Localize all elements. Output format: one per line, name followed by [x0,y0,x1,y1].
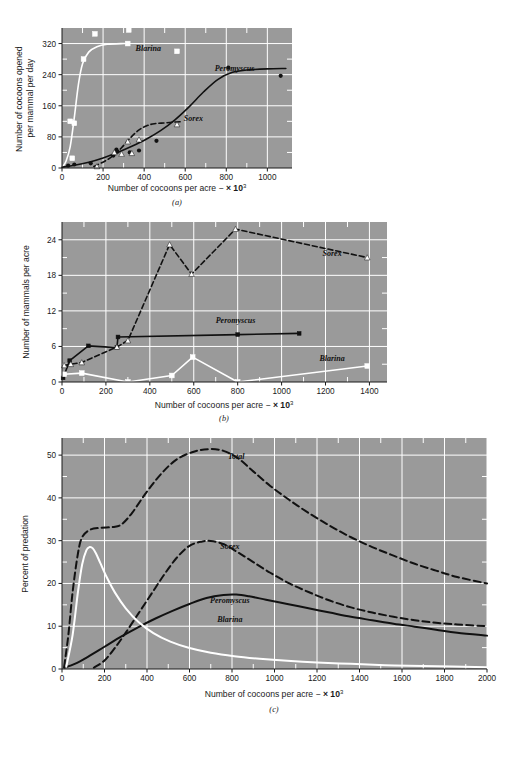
y-tick-label: 0 [51,665,56,674]
x-tick-label: 400 [140,674,154,683]
chart-panel-b: 020040060080010001200140006121824 Peromy… [0,212,517,424]
data-point-peromyscus [72,162,76,166]
data-point-blarina [175,49,180,54]
series-label-sorex: Sorex [323,249,342,258]
panel-letter-c: (c) [269,705,279,714]
x-tick-label: 1600 [393,674,412,683]
data-point-peromyscus [86,344,90,348]
y-tick-label: 24 [47,236,57,245]
y-tick-label: 160 [42,102,56,111]
x-axis-title-a-prefix: Number of cocoons per acre − [108,183,226,193]
x-axis-title-b-prefix: Number of cocoons per acre − [155,400,273,410]
chart-a-svg: 02004006008001000080160240320 BlarinaPer… [0,14,517,210]
data-point-peromyscus [154,139,158,143]
x-axis-title-c-exp: 3 [340,689,344,695]
x-tick-label: 600 [187,387,201,396]
y-tick-label: 10 [47,622,57,631]
x-tick-label: 200 [96,173,110,182]
y-tick-label: 20 [47,579,57,588]
series-label-sorex: Sorex [220,542,239,551]
x-axis-title-a: Number of cocoons per acre − × 103 [108,183,247,194]
data-point-blarina [125,41,130,46]
chart-panel-a: 02004006008001000080160240320 BlarinaPer… [0,14,517,210]
chart-c-svg: 0200400600800100012001400160018002000010… [0,428,517,757]
x-axis-title-c-mult: × 10 [323,689,340,699]
y-tick-label: 50 [47,451,57,460]
x-tick-label: 0 [60,173,65,182]
data-point-blarina [81,57,86,62]
x-tick-label: 800 [219,173,233,182]
data-point-peromyscus [89,161,93,165]
data-point-peromyscus [297,332,301,336]
x-axis-title-b-exp: 3 [290,400,294,406]
panel-letter-b: (b) [219,414,229,423]
data-point-blarina [92,31,97,36]
y-axis-title-a-line1: Number of cocoons opened [14,46,24,152]
series-label-blarina: Blarina [216,615,242,624]
x-tick-label: 1000 [265,674,284,683]
y-axis-title-c: Percent of predation [20,515,30,593]
series-label-blarina: Blarina [135,44,161,53]
x-axis-title-b-mult: × 10 [273,400,290,410]
x-tick-label: 1000 [272,387,291,396]
series-label-peromyscus: Peromyscus [210,596,250,605]
y-tick-label: 0 [51,378,56,387]
x-tick-label: 1800 [435,674,454,683]
data-point-blarina [62,372,67,377]
figure-page: 02004006008001000080160240320 BlarinaPer… [0,0,517,757]
x-axis-title-b: Number of cocoons per acre − × 103 [155,400,294,411]
x-tick-label: 400 [137,173,151,182]
x-tick-label: 200 [99,387,113,396]
chart-panel-c: 0200400600800100012001400160018002000010… [0,428,517,757]
data-point-blarina [70,156,75,161]
x-tick-label: 800 [231,387,245,396]
x-axis-title-a-exp: 3 [243,183,247,189]
x-axis-title-c-prefix: Number of cocoons per acre − [205,689,323,699]
x-tick-label: 200 [98,674,112,683]
y-axis-title-b: Number of mammals per acre [21,245,31,359]
data-point-peromyscus [279,74,283,78]
data-point-blarina [365,364,370,369]
data-point-blarina [169,373,174,378]
y-tick-label: 30 [47,537,57,546]
y-axis-title-a-line2: per mammal per day [25,58,35,138]
y-axis-title-a: Number of cocoons opened per mammal per … [14,44,35,152]
y-tick-label: 320 [42,40,56,49]
y-tick-label: 18 [47,271,57,280]
y-tick-label: 80 [47,133,57,142]
data-point-blarina [72,121,77,126]
x-tick-label: 0 [60,674,65,683]
data-point-blarina [79,371,84,376]
data-point-blarina [126,28,131,33]
x-tick-label: 1400 [360,387,379,396]
data-point-peromyscus [137,148,141,152]
x-tick-label: 0 [60,387,65,396]
x-tick-label: 600 [183,674,197,683]
panel-letter-a: (a) [172,198,182,207]
series-label-peromyscus: Peromyscus [216,316,256,325]
x-axis-title-c: Number of cocoons per acre − × 103 [205,689,344,700]
y-tick-label: 0 [51,164,56,173]
x-tick-label: 400 [143,387,157,396]
data-point-peromyscus [236,333,240,337]
x-tick-label: 1200 [316,387,335,396]
series-label-sorex: Sorex [184,114,203,123]
x-tick-label: 1200 [308,674,327,683]
x-tick-label: 800 [225,674,239,683]
data-point-blarina [190,355,195,360]
data-point-peromyscus [66,164,70,168]
x-tick-label: 2000 [478,674,497,683]
y-tick-label: 6 [51,342,56,351]
x-tick-label: 1000 [258,173,277,182]
y-tick-label: 40 [47,494,57,503]
chart-b-svg: 020040060080010001200140006121824 Peromy… [0,212,517,424]
x-axis-title-a-mult: × 10 [226,183,243,193]
series-label-peromyscus: Peromyscus [215,64,255,73]
y-tick-label: 240 [42,71,56,80]
series-label-total: Total [228,452,245,461]
series-label-blarina: Blarina [318,354,344,363]
data-point-peromyscus [116,335,120,339]
x-tick-label: 1400 [350,674,369,683]
x-tick-label: 600 [178,173,192,182]
y-tick-label: 12 [47,307,57,316]
